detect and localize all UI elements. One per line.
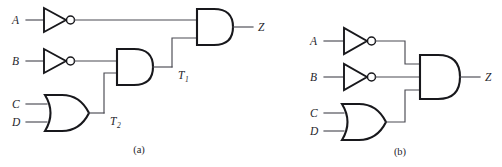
input-label-c-b: C <box>310 107 318 119</box>
inverter-b-bubble-b <box>368 73 376 81</box>
wire-nota-to-and-b <box>376 41 421 64</box>
panel-a: A B C D T 1 T 2 Z (a) <box>11 8 265 156</box>
input-label-b-b: B <box>310 71 317 83</box>
and-gate-t1-body <box>117 49 153 85</box>
input-label-c: C <box>12 98 20 110</box>
panel-b: A B C D Z (b) <box>309 28 492 158</box>
input-label-d-b: D <box>309 125 319 137</box>
panel-caption-a: (a) <box>133 144 145 156</box>
and-gate-output-body <box>197 9 233 45</box>
input-label-a-b: A <box>309 35 318 47</box>
inverter-b-body-b <box>344 64 367 90</box>
inverter-a-body <box>44 8 66 32</box>
circuit-canvas: A B C D T 1 T 2 Z (a) <box>0 0 502 167</box>
inverter-b-bubble <box>67 57 75 65</box>
output-label-z: Z <box>258 21 265 33</box>
panel-caption-b: (b) <box>394 146 407 158</box>
inverter-a-bubble <box>67 16 75 24</box>
wire-t1-to-and <box>172 38 197 67</box>
input-label-d: D <box>11 116 21 128</box>
output-label-z-b: Z <box>485 71 492 83</box>
input-label-b: B <box>12 55 19 67</box>
wire-or-to-and-b <box>386 90 420 122</box>
inverter-a-body-b <box>344 28 367 54</box>
or-gate-cd-body-b <box>342 104 386 140</box>
signal-label-t2-subscript: 2 <box>117 121 121 130</box>
or-gate-cd-body <box>45 95 89 131</box>
and-gate-output-body-b <box>420 55 460 99</box>
input-label-a: A <box>11 14 20 26</box>
wire-t2-to-and <box>104 73 117 113</box>
signal-label-t1-subscript: 1 <box>185 75 189 84</box>
logic-circuit-figure: A B C D T 1 T 2 Z (a) <box>0 0 502 167</box>
inverter-a-bubble-b <box>368 37 376 45</box>
inverter-b-body <box>44 49 66 73</box>
